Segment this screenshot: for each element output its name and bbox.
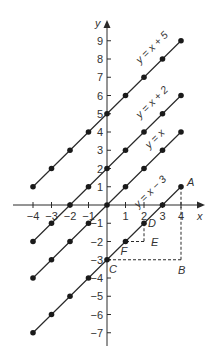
data-point <box>141 220 147 226</box>
data-point <box>67 239 73 245</box>
data-point <box>67 202 73 208</box>
y-tick-label: 6 <box>97 90 103 102</box>
data-point <box>86 275 92 281</box>
data-point <box>178 184 184 190</box>
y-tick-label: 3 <box>97 144 103 156</box>
data-point <box>178 129 184 135</box>
x-axis-label: x <box>196 210 203 222</box>
y-tick-label: 9 <box>97 35 103 47</box>
data-point <box>141 166 147 172</box>
point-label-e: E <box>151 236 159 248</box>
data-point <box>30 330 36 336</box>
x-tick-label: −2 <box>64 210 77 222</box>
series-label: y = x <box>141 126 167 152</box>
data-point <box>86 129 92 135</box>
data-point <box>30 184 36 190</box>
x-tick-label: 4 <box>178 210 184 222</box>
y-tick-label: 8 <box>97 53 103 65</box>
data-point <box>49 257 55 263</box>
data-point <box>160 111 166 117</box>
data-point <box>178 38 184 44</box>
data-point <box>160 56 166 62</box>
data-point <box>104 111 110 117</box>
point-label-a: A <box>186 176 194 188</box>
labels: y = x + 5y = x + 2y = xy = x − 3ABCDEF <box>109 29 194 276</box>
data-point <box>160 202 166 208</box>
y-tick-label: −6 <box>90 309 103 321</box>
x-tick-label: 3 <box>159 210 165 222</box>
y-tick-label: −7 <box>90 327 103 339</box>
x-tick-label: −4 <box>27 210 40 222</box>
data-point <box>49 166 55 172</box>
data-point <box>141 74 147 80</box>
data-point <box>49 312 55 318</box>
axes: −4−3−2−11234987654321−1−2−3−4−5−6−7yx <box>13 17 205 346</box>
line-chart: −4−3−2−11234987654321−1−2−3−4−5−6−7yx y … <box>0 0 213 362</box>
data-point <box>86 184 92 190</box>
data-point <box>67 147 73 153</box>
x-tick-label: −3 <box>45 210 58 222</box>
y-tick-label: 7 <box>97 71 103 83</box>
data-point <box>30 239 36 245</box>
data-point <box>67 293 73 299</box>
data-point <box>86 220 92 226</box>
point-label-f: F <box>121 245 129 257</box>
data-point <box>123 93 129 99</box>
point-label-d: D <box>148 217 156 229</box>
y-tick-label: 4 <box>97 126 103 138</box>
x-tick-label: 2 <box>141 210 147 222</box>
point-label-c: C <box>109 263 117 275</box>
x-axis-arrow-icon <box>197 202 205 209</box>
y-tick-label: −2 <box>90 236 103 248</box>
data-point <box>123 239 129 245</box>
data-point <box>178 93 184 99</box>
y-tick-label: 1 <box>97 181 103 193</box>
data-point <box>30 275 36 281</box>
point-label-b: B <box>178 264 185 276</box>
data-point <box>123 147 129 153</box>
y-axis-label: y <box>94 17 102 29</box>
data-point <box>160 147 166 153</box>
data-point <box>104 166 110 172</box>
y-axis-arrow-icon <box>104 20 111 28</box>
data-point <box>123 184 129 190</box>
data-point <box>141 129 147 135</box>
data-point <box>104 257 110 263</box>
data-point <box>49 220 55 226</box>
y-tick-label: −5 <box>90 290 103 302</box>
x-tick-label: 1 <box>122 210 128 222</box>
y-tick-label: −3 <box>90 254 103 266</box>
data-point <box>104 202 110 208</box>
